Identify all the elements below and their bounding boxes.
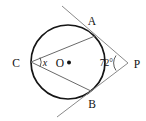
- angle-arc-p: [114, 56, 116, 71]
- label-point-c: C: [12, 57, 20, 69]
- label-angle-p: 72°: [100, 58, 114, 68]
- label-point-b: B: [88, 98, 96, 110]
- center-dot: [67, 61, 71, 65]
- label-point-a: A: [88, 15, 97, 27]
- geometry-figure: A B C O P x 72°: [0, 0, 146, 121]
- label-center-o: O: [56, 57, 64, 69]
- label-point-p: P: [134, 58, 140, 70]
- angle-arc-c: [40, 58, 41, 67]
- label-angle-x: x: [42, 57, 48, 68]
- geometry-canvas: A B C O P x 72°: [0, 0, 146, 121]
